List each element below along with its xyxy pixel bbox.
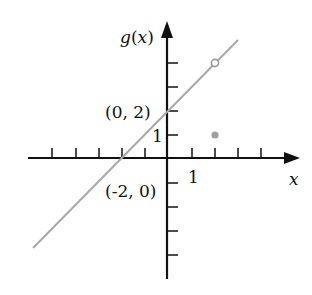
- function-line: [33, 40, 238, 248]
- y-axis-label: g(x): [120, 27, 154, 47]
- x-unit-label: 1: [188, 167, 199, 187]
- y-unit-label: 1: [152, 126, 163, 146]
- filled-point-marker: [211, 131, 218, 138]
- x-axis-arrow-icon: [284, 152, 300, 164]
- x-axis-label: x: [289, 169, 299, 189]
- x-ticks: [52, 148, 261, 158]
- function-graph: g(x) x (0, 2) (-2, 0) 1 1: [0, 0, 312, 295]
- y-intercept-label: (0, 2): [105, 102, 151, 122]
- open-point-marker: [211, 59, 218, 66]
- y-axis-arrow-icon: [161, 21, 173, 38]
- x-intercept-label: (-2, 0): [105, 181, 156, 201]
